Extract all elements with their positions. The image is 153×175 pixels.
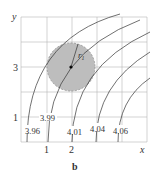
panel-label: b bbox=[72, 161, 78, 172]
x-tick-2: 2 bbox=[69, 144, 74, 155]
contour-label-4-06: 4.06 bbox=[113, 126, 128, 136]
x-axis-label: x bbox=[139, 144, 145, 155]
y-tick-1: 1 bbox=[13, 112, 18, 123]
contour-diagram: r1 y x 3 1 1 2 3.99 3.96 4.01 4.04 4.06 … bbox=[0, 0, 153, 175]
contour-label-4-01: 4.01 bbox=[67, 127, 82, 137]
contour-label-3-99: 3.99 bbox=[40, 113, 55, 123]
contour-label-3-96: 3.96 bbox=[25, 126, 40, 136]
contour-label-4-04: 4.04 bbox=[90, 124, 106, 134]
y-tick-3: 3 bbox=[13, 62, 18, 73]
y-axis-label: y bbox=[11, 11, 17, 22]
x-tick-1: 1 bbox=[44, 144, 49, 155]
